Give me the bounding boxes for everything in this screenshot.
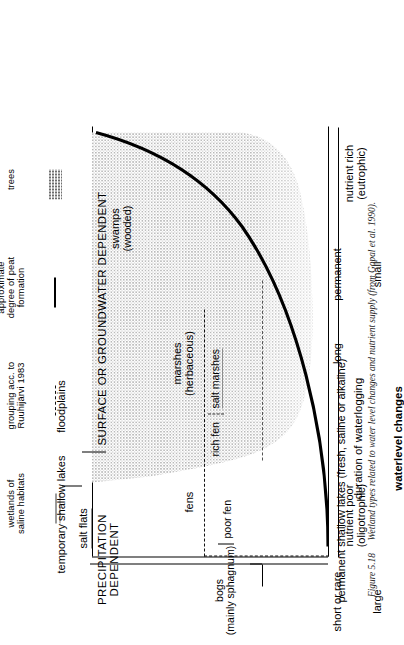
left-axis-tick-long xyxy=(262,564,263,586)
axis-top-surface-groundwater-dependent: SURFACE OR GROUNDWATER DEPENDENT xyxy=(96,191,108,445)
caption-label: Figure 5.18 xyxy=(367,553,377,597)
legend-label-line2: Ruuhijärvi 1983 xyxy=(16,341,26,449)
caption-text: Wetland types related to water level cha… xyxy=(367,202,377,541)
solid-line-marker-icon xyxy=(50,267,62,307)
legend-label-line1: grouping acc. to xyxy=(6,341,16,449)
axis-tick-permanent: permanent xyxy=(332,229,344,319)
top-axis-divider xyxy=(82,451,106,452)
legend-label-line1: wetlands of xyxy=(6,449,16,557)
label-temporary-shallow-lakes: temporary shallow lakes xyxy=(56,454,68,574)
label-salt-marshes: salt marshes xyxy=(210,348,223,408)
axis-tick-long: long xyxy=(332,323,344,383)
legend-label: trees xyxy=(6,125,16,233)
mid-dashed-divider xyxy=(262,280,263,460)
axis-title-waterlevel-changes: waterlevel changes xyxy=(392,323,404,553)
legend-label-line2: degree of peat xyxy=(6,233,16,341)
legend-label: grouping acc. to Ruuhijärvi 1983 xyxy=(6,341,26,449)
rich-fen-salt-marshes-divider xyxy=(208,413,224,414)
label-bogs: bogs (mainly sphagnum) xyxy=(214,544,237,636)
legend-label: approximate degree of peat formation xyxy=(0,233,26,341)
label-rich-fen: rich fen xyxy=(210,422,221,456)
legend-label-line1: trees xyxy=(6,125,16,233)
label-marshes: marshes (herbaceous) xyxy=(172,298,196,428)
floodplains-divider xyxy=(62,485,82,486)
label-fens: fens xyxy=(184,491,196,512)
plot-area: swamps (wooded) marshes (herbaceous) sal… xyxy=(92,126,328,557)
label-salt-flats: salt flats xyxy=(78,508,92,548)
label-floodplains: floodplains xyxy=(56,366,68,446)
axis-tick-short-or-rare: short or rare xyxy=(332,553,344,645)
axis-top-precipitation-dependent: PRECIPITATION DEPENDENT xyxy=(96,465,121,645)
legend-label-line2: saline habitats xyxy=(16,449,26,557)
figure-caption-wrap: Figure 5.18 Wetland types related to wat… xyxy=(352,0,374,645)
stipple-swatch-marker-icon xyxy=(50,159,62,199)
legend-label-line3: formation xyxy=(16,233,26,341)
label-swamps: swamps (wooded) xyxy=(110,168,134,288)
legend: wetlands of saline habitats grouping acc… xyxy=(6,127,84,557)
legend-label: wetlands of saline habitats xyxy=(6,449,26,557)
label-poor-fen: poor fen xyxy=(222,499,233,538)
